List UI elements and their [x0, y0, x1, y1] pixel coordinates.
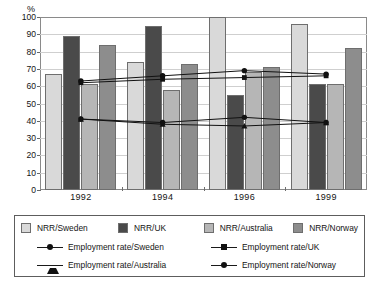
plot-area [40, 17, 367, 190]
x-tick-label-1992: 1992 [40, 192, 122, 202]
legend-label-nrr-norway: NRR/Norway [309, 223, 358, 233]
y-tick-mark [37, 155, 40, 156]
y-tick-mark [37, 34, 40, 35]
legend-swatch-nrr-norway [293, 223, 303, 233]
bar-nrr-uk-1994 [145, 26, 162, 190]
line-marker-triangle-icon [37, 260, 63, 270]
y-tick-mark [37, 173, 40, 174]
legend-label-employment-sweden: Employment rate/Sweden [68, 242, 164, 252]
x-tick-mark [285, 187, 286, 191]
legend-item-employment-norway[interactable]: Employment rate/Norway [211, 260, 336, 270]
bar-nrr-norway-1999 [345, 48, 362, 190]
chart-screenshot: % 0102030405060708090100 199219941996199… [0, 0, 379, 288]
bar-nrr-australia-1994 [163, 90, 180, 190]
bar-nrr-australia-1996 [245, 72, 262, 190]
y-tick-label: 0 [0, 186, 36, 194]
bar-group-1999 [285, 17, 367, 190]
bar-nrr-australia-1992 [81, 84, 98, 190]
legend-label-nrr-sweden: NRR/Sweden [37, 223, 88, 233]
y-tick-label: 20 [0, 151, 36, 159]
y-tick-label: 100 [0, 13, 36, 21]
legend-swatch-nrr-sweden [21, 223, 31, 233]
legend-label-employment-australia: Employment rate/Australia [68, 260, 166, 270]
legend-swatch-nrr-uk [118, 223, 128, 233]
y-tick-mark [37, 52, 40, 53]
bar-nrr-sweden-1999 [291, 24, 308, 190]
legend-item-employment-uk[interactable]: Employment rate/UK [211, 242, 319, 252]
legend-item-nrr-uk[interactable]: NRR/UK [118, 223, 204, 233]
x-tick-mark [204, 187, 205, 191]
legend-swatch-nrr-australia [204, 223, 214, 233]
x-axis-tick-labels: 1992199419961999 [40, 192, 367, 202]
bar-nrr-australia-1999 [327, 84, 344, 190]
line-marker-square-icon [211, 242, 237, 252]
y-tick-label: 70 [0, 65, 36, 73]
x-tick-label-1996: 1996 [204, 192, 286, 202]
legend-item-employment-australia[interactable]: Employment rate/Australia [37, 260, 211, 270]
bar-nrr-norway-1994 [181, 64, 198, 190]
legend-item-nrr-sweden[interactable]: NRR/Sweden [21, 223, 118, 233]
y-tick-label: 50 [0, 100, 36, 108]
line-marker-dot-icon [37, 242, 63, 252]
bar-nrr-sweden-1996 [209, 17, 226, 190]
legend-item-employment-sweden[interactable]: Employment rate/Sweden [37, 242, 211, 252]
y-tick-label: 10 [0, 169, 36, 177]
chart-legend: NRR/Sweden NRR/UK NRR/Australia NRR/Norw… [14, 215, 365, 277]
line-marker-dot-icon [211, 260, 237, 270]
x-tick-label-1999: 1999 [285, 192, 367, 202]
bar-nrr-norway-1992 [99, 45, 116, 190]
y-tick-mark [37, 121, 40, 122]
y-tick-mark [37, 86, 40, 87]
legend-label-nrr-australia: NRR/Australia [220, 223, 273, 233]
y-tick-mark [37, 190, 40, 191]
bar-nrr-uk-1996 [227, 95, 244, 190]
bar-groups [40, 17, 367, 190]
legend-item-nrr-australia[interactable]: NRR/Australia [204, 223, 293, 233]
bar-nrr-sweden-1994 [127, 62, 144, 190]
y-tick-label: 30 [0, 134, 36, 142]
chart-plot-region: % 0102030405060708090100 199219941996199… [0, 0, 379, 206]
x-tick-mark [122, 187, 123, 191]
x-tick-label-1994: 1994 [122, 192, 204, 202]
bar-nrr-sweden-1992 [45, 74, 62, 190]
y-tick-mark [37, 104, 40, 105]
y-tick-mark [37, 69, 40, 70]
legend-row-lines-1: Employment rate/Sweden Employment rate/U… [15, 238, 364, 256]
y-tick-mark [37, 17, 40, 18]
legend-item-nrr-norway[interactable]: NRR/Norway [293, 223, 358, 233]
bar-group-1994 [122, 17, 204, 190]
y-tick-mark [37, 138, 40, 139]
y-tick-label: 80 [0, 48, 36, 56]
legend-label-nrr-uk: NRR/UK [134, 223, 166, 233]
bar-nrr-uk-1992 [63, 36, 80, 190]
bar-group-1996 [204, 17, 286, 190]
y-tick-label: 90 [0, 30, 36, 38]
legend-label-employment-uk: Employment rate/UK [242, 242, 319, 252]
legend-row-lines-2: Employment rate/Australia Employment rat… [15, 256, 364, 274]
legend-label-employment-norway: Employment rate/Norway [242, 260, 336, 270]
y-tick-label: 40 [0, 117, 36, 125]
bar-group-1992 [40, 17, 122, 190]
bar-nrr-uk-1999 [309, 84, 326, 190]
bar-nrr-norway-1996 [263, 67, 280, 190]
legend-row-bars: NRR/Sweden NRR/UK NRR/Australia NRR/Norw… [15, 216, 364, 238]
y-tick-label: 60 [0, 82, 36, 90]
